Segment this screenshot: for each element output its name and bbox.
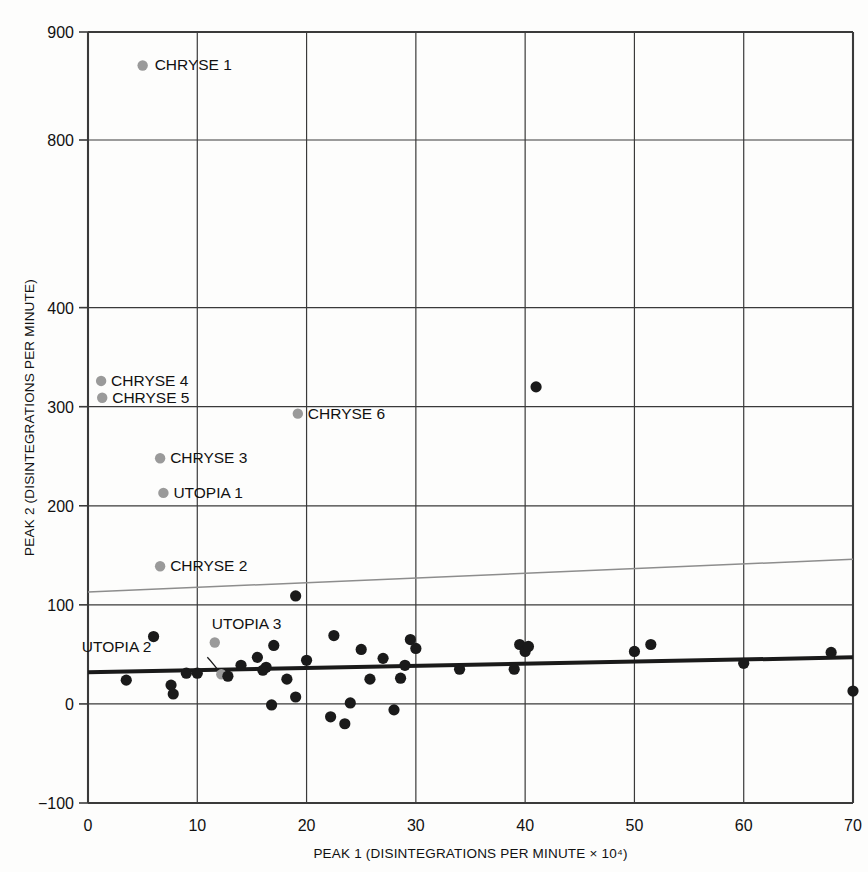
x-tick-label: 60: [735, 817, 753, 834]
cropped-footer-text: [40, 861, 830, 872]
data-point: [509, 664, 520, 675]
data-point: [301, 655, 312, 666]
figure-container: 9008004003002001000−100010203040506070 C…: [0, 0, 868, 872]
data-point: [339, 718, 350, 729]
x-tick-label: 0: [84, 817, 93, 834]
tick-labels-group: 9008004003002001000−100010203040506070: [38, 24, 862, 834]
trend-line: [88, 657, 853, 672]
x-tick-label: 50: [626, 817, 644, 834]
data-point: [181, 668, 192, 679]
point-label: UTOPIA 2: [82, 638, 152, 655]
x-tick-label: 30: [407, 817, 425, 834]
point-label: CHRYSE 1: [155, 56, 232, 73]
data-point: [192, 668, 203, 679]
y-tick-label: 900: [47, 24, 74, 41]
y-tick-label: 0: [65, 696, 74, 713]
data-point: [399, 660, 410, 671]
data-point: [222, 671, 233, 682]
data-point: [266, 699, 277, 710]
point-label: CHRYSE 4: [111, 372, 189, 389]
point-label: CHRYSE 2: [170, 557, 247, 574]
data-point: [168, 688, 179, 699]
data-point: [523, 641, 534, 652]
data-point: [356, 644, 367, 655]
data-point: [325, 711, 336, 722]
y-tick-label: 200: [47, 498, 74, 515]
data-point: [364, 674, 375, 685]
gridlines-group: [88, 32, 853, 803]
point-label: CHRYSE 5: [112, 389, 189, 406]
data-point: [454, 664, 465, 675]
data-point: [345, 697, 356, 708]
data-point: [629, 646, 640, 657]
x-axis-title: PEAK 1 (DISINTEGRATIONS PER MINUTE × 10⁴…: [313, 846, 627, 861]
data-point: [155, 561, 165, 571]
data-point: [268, 640, 279, 651]
data-point: [252, 652, 263, 663]
y-axis-title: PEAK 2 (DISINTEGRATIONS PER MINUTE): [22, 279, 37, 556]
data-point: [738, 658, 749, 669]
axis-frame-group: [79, 32, 88, 803]
x-tick-label: 10: [188, 817, 206, 834]
x-tick-label: 40: [516, 817, 534, 834]
data-point: [281, 674, 292, 685]
data-point: [97, 393, 107, 403]
data-point: [847, 685, 858, 696]
point-label: UTOPIA 3: [212, 615, 282, 632]
scatter-plot: 9008004003002001000−100010203040506070 C…: [0, 0, 868, 872]
x-tick-label: 20: [298, 817, 316, 834]
point-labels-group: CHRYSE 1CHRYSE 4CHRYSE 5CHRYSE 6CHRYSE 3…: [82, 56, 385, 670]
data-point: [155, 453, 165, 463]
data-point: [410, 643, 421, 654]
data-point: [293, 408, 303, 418]
y-tick-label: 100: [47, 597, 74, 614]
data-point: [395, 673, 406, 684]
data-point: [235, 660, 246, 671]
data-point: [290, 590, 301, 601]
data-point: [290, 691, 301, 702]
data-point: [328, 630, 339, 641]
trend-lines-group: [88, 559, 853, 672]
data-point: [826, 647, 837, 658]
point-label: UTOPIA 1: [173, 484, 243, 501]
data-point: [121, 675, 132, 686]
point-label: CHRYSE 6: [308, 405, 385, 422]
data-point: [158, 488, 168, 498]
axis-titles-group: PEAK 1 (DISINTEGRATIONS PER MINUTE × 10⁴…: [22, 279, 628, 861]
data-point: [96, 376, 106, 386]
data-point: [645, 639, 656, 650]
data-point: [530, 381, 541, 392]
y-tick-label: 400: [47, 300, 74, 317]
x-tick-label: 70: [844, 817, 862, 834]
data-point: [377, 653, 388, 664]
data-point: [257, 665, 268, 676]
data-point: [388, 704, 399, 715]
data-point: [137, 60, 147, 70]
y-tick-label: −100: [38, 795, 74, 812]
y-tick-label: 800: [47, 132, 74, 149]
data-point: [210, 637, 220, 647]
y-tick-label: 300: [47, 399, 74, 416]
point-label: CHRYSE 3: [170, 449, 247, 466]
